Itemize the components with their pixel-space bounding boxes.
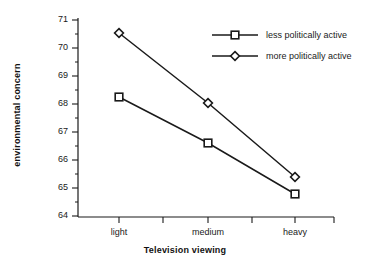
y-tick-label-64: 64 [46, 211, 68, 220]
square-marker [204, 139, 212, 147]
x-tick-label-medium: medium [178, 228, 238, 237]
x-axis-title: Television viewing [0, 245, 370, 255]
x-tick-label-heavy: heavy [265, 228, 325, 237]
y-tick-label-71: 71 [46, 15, 68, 24]
square-marker [231, 31, 239, 39]
legend-sample-more-politically-active [212, 52, 258, 61]
y-tick-label-70: 70 [46, 43, 68, 52]
y-tick-label-67: 67 [46, 127, 68, 136]
y-tick-label-69: 69 [46, 71, 68, 80]
x-ticks [119, 217, 334, 223]
x-tick-label-light: light [89, 228, 149, 237]
legend-label-more-politically-active: more politically active [266, 51, 352, 61]
y-tick-label-65: 65 [46, 183, 68, 192]
square-marker [291, 190, 299, 198]
y-tick-label-68: 68 [46, 99, 68, 108]
diamond-marker [231, 52, 240, 61]
legend-sample-less-politically-active [212, 31, 258, 39]
y-axis-title: environmental concern [12, 40, 22, 190]
legend-label-less-politically-active: less politically active [266, 30, 347, 40]
line-chart: 71 70 69 68 67 66 65 64 light medium hea… [0, 0, 370, 266]
square-marker [115, 93, 123, 101]
y-tick-label-66: 66 [46, 155, 68, 164]
y-axis-title-wrapper: environmental concern [12, 40, 26, 190]
